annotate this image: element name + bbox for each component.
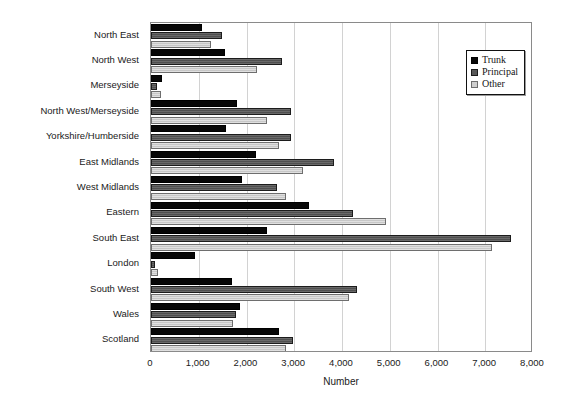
- bar-slot: [151, 108, 531, 115]
- bar-trunk: [151, 100, 237, 107]
- bar-slot: [151, 24, 531, 31]
- legend-swatch-trunk: [471, 57, 478, 64]
- y-axis-label: North West/Merseyside: [40, 105, 139, 116]
- legend-item-trunk: Trunk: [471, 54, 518, 66]
- bar-trunk: [151, 24, 202, 31]
- bar-group: [151, 251, 531, 276]
- bar-slot: [151, 328, 531, 335]
- bar-slot: [151, 193, 531, 200]
- bar-group: [151, 277, 531, 302]
- legend-label-principal: Principal: [482, 66, 518, 78]
- x-axis-tick-label: 3,000: [281, 357, 305, 369]
- bar-trunk: [151, 202, 309, 209]
- y-axis-label: Merseyside: [90, 79, 139, 90]
- x-axis-tick-label: 5,000: [377, 357, 401, 369]
- bar-trunk: [151, 303, 240, 310]
- bar-other: [151, 218, 386, 225]
- x-axis-ticks: 01,0002,0003,0004,0005,0006,0007,0008,00…: [150, 357, 532, 371]
- bar-trunk: [151, 252, 195, 259]
- bar-slot: [151, 261, 531, 268]
- bar-slot: [151, 303, 531, 310]
- bar-group: [151, 175, 531, 200]
- bar-trunk: [151, 125, 226, 132]
- bar-other: [151, 117, 267, 124]
- bar-trunk: [151, 278, 232, 285]
- bar-principal: [151, 58, 282, 65]
- legend-item-other: Other: [471, 78, 518, 90]
- bar-other: [151, 167, 303, 174]
- legend-label-other: Other: [482, 78, 505, 90]
- bar-slot: [151, 167, 531, 174]
- bar-principal: [151, 311, 236, 318]
- bar-trunk: [151, 151, 256, 158]
- legend-label-trunk: Trunk: [482, 54, 506, 66]
- bar-principal: [151, 32, 222, 39]
- y-axis-label: South East: [93, 232, 139, 243]
- bar-slot: [151, 286, 531, 293]
- bar-slot: [151, 176, 531, 183]
- y-axis-label: North East: [94, 29, 139, 40]
- bar-slot: [151, 311, 531, 318]
- bar-slot: [151, 269, 531, 276]
- y-axis-label: West Midlands: [77, 181, 139, 192]
- bar-principal: [151, 83, 157, 90]
- legend-item-principal: Principal: [471, 66, 518, 78]
- bar-slot: [151, 159, 531, 166]
- x-axis-tick-label: 0: [147, 357, 152, 369]
- bar-group: [151, 226, 531, 251]
- bar-slot: [151, 235, 531, 242]
- y-axis-label: East Midlands: [79, 156, 139, 167]
- bar-group: [151, 328, 531, 352]
- bar-group: [151, 302, 531, 327]
- bar-slot: [151, 117, 531, 124]
- bar-other: [151, 41, 211, 48]
- bar-slot: [151, 252, 531, 259]
- bar-slot: [151, 142, 531, 149]
- bar-slot: [151, 100, 531, 107]
- bar-slot: [151, 294, 531, 301]
- x-axis-title: Number: [150, 376, 532, 387]
- legend-swatch-other: [471, 81, 478, 88]
- y-axis-label: South West: [90, 283, 139, 294]
- bar-slot: [151, 320, 531, 327]
- x-axis-tick-label: 6,000: [425, 357, 449, 369]
- bar-other: [151, 66, 257, 73]
- bar-slot: [151, 202, 531, 209]
- x-axis-tick-label: 7,000: [472, 357, 496, 369]
- bar-slot: [151, 345, 531, 352]
- bar-other: [151, 269, 158, 276]
- chart-legend: Trunk Principal Other: [466, 50, 525, 95]
- bar-other: [151, 91, 161, 98]
- bar-principal: [151, 159, 334, 166]
- y-axis-label: Wales: [113, 308, 139, 319]
- bar-slot: [151, 134, 531, 141]
- bar-other: [151, 142, 279, 149]
- y-axis-labels: North EastNorth WestMerseysideNorth West…: [0, 22, 145, 352]
- y-axis-label: Eastern: [106, 206, 139, 217]
- bar-group: [151, 23, 531, 48]
- bar-slot: [151, 184, 531, 191]
- bar-other: [151, 193, 286, 200]
- y-axis-label: Yorkshire/Humberside: [46, 130, 139, 141]
- x-axis-tick-label: 4,000: [329, 357, 353, 369]
- x-axis-tick-label: 1,000: [186, 357, 210, 369]
- y-axis-label: London: [107, 257, 139, 268]
- bar-trunk: [151, 328, 279, 335]
- x-axis-tick-label: 8,000: [520, 357, 544, 369]
- bar-other: [151, 345, 286, 352]
- bar-slot: [151, 227, 531, 234]
- bar-slot: [151, 125, 531, 132]
- bar-principal: [151, 134, 291, 141]
- bar-slot: [151, 244, 531, 251]
- bar-principal: [151, 286, 357, 293]
- bar-other: [151, 294, 349, 301]
- bar-other: [151, 244, 492, 251]
- bar-principal: [151, 210, 353, 217]
- bar-slot: [151, 337, 531, 344]
- bar-trunk: [151, 49, 225, 56]
- legend-swatch-principal: [471, 69, 478, 76]
- bar-trunk: [151, 227, 267, 234]
- bar-trunk: [151, 176, 242, 183]
- bar-group: [151, 201, 531, 226]
- bar-chart: North EastNorth WestMerseysideNorth West…: [0, 0, 580, 417]
